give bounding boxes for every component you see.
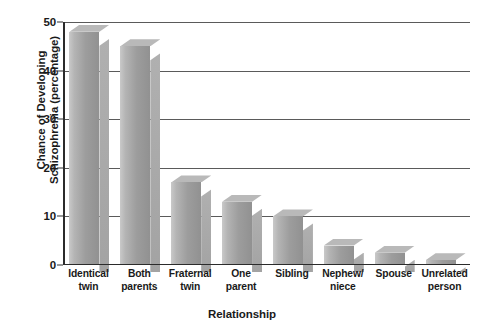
bar xyxy=(222,202,252,265)
bar-top-face xyxy=(69,25,109,32)
plot-area xyxy=(63,22,470,265)
y-axis-tick-labels: 01020304050 xyxy=(24,0,56,332)
x-axis-tick-label-line: parent xyxy=(210,281,273,294)
bar xyxy=(69,32,99,265)
bar-front-face xyxy=(69,32,99,265)
y-axis-tick-label: 50 xyxy=(24,16,56,28)
y-axis-tick-label: 30 xyxy=(24,113,56,125)
x-axis-tick-label-line: person xyxy=(413,281,476,294)
y-axis-tick-mark xyxy=(57,119,63,120)
bar-slot xyxy=(222,22,252,265)
bar-top-face xyxy=(273,209,313,216)
bars-layer xyxy=(63,22,470,265)
bar-slot xyxy=(69,22,99,265)
x-axis-tick-label: Unrelatedperson xyxy=(413,268,476,294)
y-axis-tick-label: 10 xyxy=(24,210,56,222)
bar-chart: Chance of Developing Schizophrenia (perc… xyxy=(0,0,484,332)
x-axis-line xyxy=(63,264,470,266)
bar-front-face xyxy=(273,216,303,265)
bar-slot xyxy=(273,22,303,265)
bar xyxy=(273,216,303,265)
bar-side-face xyxy=(150,53,160,272)
y-axis-tick-mark xyxy=(57,70,63,71)
bar-side-face xyxy=(201,189,211,272)
y-axis-tick-label: 20 xyxy=(24,162,56,174)
bar-slot xyxy=(375,22,405,265)
bar-top-face xyxy=(426,253,466,260)
y-axis-tick-mark xyxy=(57,216,63,217)
x-axis-tick-label-line: niece xyxy=(311,281,374,294)
bar-front-face xyxy=(120,46,150,265)
x-axis-tick-label-line: Unrelated xyxy=(413,268,476,281)
bar-slot xyxy=(426,22,456,265)
bar-front-face xyxy=(171,182,201,265)
bar-top-face xyxy=(222,195,262,202)
x-axis-title: Relationship xyxy=(0,308,484,320)
bar xyxy=(324,246,354,265)
bar-front-face xyxy=(324,246,354,265)
y-axis-tick-mark xyxy=(57,265,63,266)
y-axis-tick-label: 40 xyxy=(24,65,56,77)
bar-slot xyxy=(120,22,150,265)
bar-top-face xyxy=(375,246,415,253)
bar-side-face xyxy=(99,39,109,272)
y-axis-tick-mark xyxy=(57,22,63,23)
y-axis-tick-label: 0 xyxy=(24,259,56,271)
bar-front-face xyxy=(222,202,252,265)
bar xyxy=(171,182,201,265)
bar xyxy=(120,46,150,265)
bar-top-face xyxy=(171,175,211,182)
bar-slot xyxy=(324,22,354,265)
bar-top-face xyxy=(120,39,160,46)
bar-slot xyxy=(171,22,201,265)
y-axis-tick-mark xyxy=(57,167,63,168)
x-axis-tick-labels: IdenticaltwinBothparentsFraternaltwinOne… xyxy=(63,268,470,304)
bar-top-face xyxy=(324,239,364,246)
